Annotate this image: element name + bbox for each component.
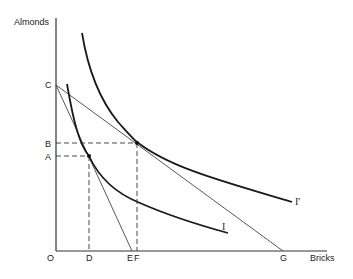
point-label-g: G — [280, 253, 287, 263]
point-label-d: D — [86, 253, 93, 263]
point-label-f: F — [134, 253, 140, 263]
point-label-c: C — [45, 80, 52, 90]
origin-label: O — [47, 253, 54, 263]
budget-line-c-e — [56, 85, 132, 251]
budget-line-c-g — [56, 85, 283, 251]
point-label-e: E — [127, 253, 133, 263]
indifference-curve-diagram: Almonds Bricks O C B A D E F G I I' — [0, 0, 353, 279]
point-label-b: B — [45, 139, 51, 149]
y-axis-label: Almonds — [14, 17, 50, 27]
point-label-a: A — [45, 152, 51, 162]
tangency-point-a — [87, 154, 91, 158]
x-axis-label: Bricks — [310, 253, 335, 263]
curve-label-i: I — [222, 221, 225, 232]
tangency-point-b — [135, 141, 139, 145]
curve-label-i-prime: I' — [295, 196, 300, 207]
indifference-curve-i-prime — [82, 33, 292, 202]
indifference-curve-i — [67, 84, 228, 233]
